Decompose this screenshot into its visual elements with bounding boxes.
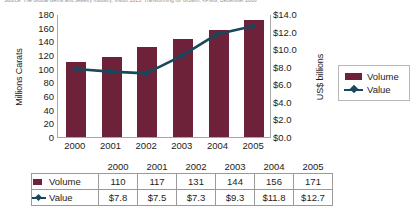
chart-legend: Volume Value xyxy=(338,65,410,101)
volume-swatch-icon xyxy=(32,176,46,187)
axis-tick-label: $2.0 xyxy=(273,115,292,125)
axis-tick-label: $14.0 xyxy=(273,10,297,20)
table-cell: $7.8 xyxy=(99,190,138,206)
legend-item-value: Value xyxy=(344,83,405,96)
column-header: 2004 xyxy=(255,160,294,174)
data-point-marker xyxy=(72,66,79,73)
table-cell: $11.8 xyxy=(255,190,294,206)
table-cell: $7.3 xyxy=(177,190,216,206)
value-line-series xyxy=(58,15,270,137)
axis-tick-label: 160 xyxy=(38,24,54,34)
axis-tick-label: 20 xyxy=(43,119,54,129)
value-line-icon xyxy=(344,84,363,95)
row-label: Volume xyxy=(49,176,81,187)
table-cell: 131 xyxy=(177,174,216,190)
row-header-volume: Volume xyxy=(32,174,99,190)
legend-label-volume: Volume xyxy=(367,71,399,82)
x-axis-tick-label: 2001 xyxy=(93,140,129,152)
axis-tick-label: $12.0 xyxy=(273,28,297,38)
chart-area: Millions Carats US$ billions 18016014012… xyxy=(0,6,416,158)
value-line-icon xyxy=(32,192,46,203)
table-corner-cell xyxy=(32,160,99,174)
column-header: 2000 xyxy=(99,160,138,174)
x-axis-tick-label: 2004 xyxy=(200,140,236,152)
data-point-marker xyxy=(108,68,115,75)
axis-tick-label: 60 xyxy=(43,92,54,102)
table-cell: 156 xyxy=(255,174,294,190)
row-label: Value xyxy=(49,192,73,203)
table-row: Value $7.8 $7.5 $7.3 $9.3 $11.8 $12.7 xyxy=(32,190,333,206)
table-cell: 117 xyxy=(138,174,177,190)
volume-swatch-icon xyxy=(344,71,363,82)
table-cell: 110 xyxy=(99,174,138,190)
table-cell: 144 xyxy=(216,174,255,190)
right-axis-title: US$ billions xyxy=(315,31,325,123)
table-row: Volume 110 117 131 144 156 171 xyxy=(32,174,333,190)
right-axis-ticks: $14.0$12.0$10.0$8.0$6.0$4.0$2.0$0.0 xyxy=(273,10,307,138)
x-axis-tick-label: 2002 xyxy=(128,140,164,152)
axis-tick-label: $8.0 xyxy=(273,63,292,73)
left-axis-ticks: 180160140120100806040200 xyxy=(24,10,54,138)
axis-tick-label: 120 xyxy=(38,51,54,61)
legend-label-value: Value xyxy=(367,84,391,95)
source-note: Source: The Global Gems and Jewelry Indu… xyxy=(4,0,416,4)
axis-tick-label: 100 xyxy=(38,65,54,75)
data-point-marker xyxy=(249,23,256,30)
table-cell: $9.3 xyxy=(216,190,255,206)
chart-figure: Source: The Global Gems and Jewelry Indu… xyxy=(0,0,416,214)
column-header: 2005 xyxy=(294,160,333,174)
value-line xyxy=(76,26,253,73)
plot-area xyxy=(57,15,271,138)
column-header: 2003 xyxy=(216,160,255,174)
x-axis-labels: 200020012002200320042005 xyxy=(57,140,271,154)
axis-tick-label: 140 xyxy=(38,37,54,47)
axis-tick-label: 40 xyxy=(43,106,54,116)
axis-tick-label: 80 xyxy=(43,78,54,88)
table-cell: $12.7 xyxy=(294,190,333,206)
left-axis-title: Millions Carats xyxy=(14,31,24,123)
table-cell: $7.5 xyxy=(138,190,177,206)
axis-tick-label: $0.0 xyxy=(273,133,292,143)
column-header: 2002 xyxy=(177,160,216,174)
table-header-row: 2000 2001 2002 2003 2004 2005 xyxy=(32,160,333,174)
column-header: 2001 xyxy=(138,160,177,174)
row-header-value: Value xyxy=(32,190,99,206)
legend-item-volume: Volume xyxy=(344,70,405,83)
x-axis-tick-label: 2000 xyxy=(57,140,93,152)
data-table: 2000 2001 2002 2003 2004 2005 Volume xyxy=(31,160,333,206)
axis-tick-label: $4.0 xyxy=(273,98,292,108)
axis-tick-label: $10.0 xyxy=(273,45,297,55)
x-axis-tick-label: 2005 xyxy=(235,140,271,152)
axis-tick-label: $6.0 xyxy=(273,80,292,90)
axis-tick-label: 180 xyxy=(38,10,54,20)
table-cell: 171 xyxy=(294,174,333,190)
x-axis-tick-label: 2003 xyxy=(164,140,200,152)
axis-tick-label: 0 xyxy=(49,133,54,143)
